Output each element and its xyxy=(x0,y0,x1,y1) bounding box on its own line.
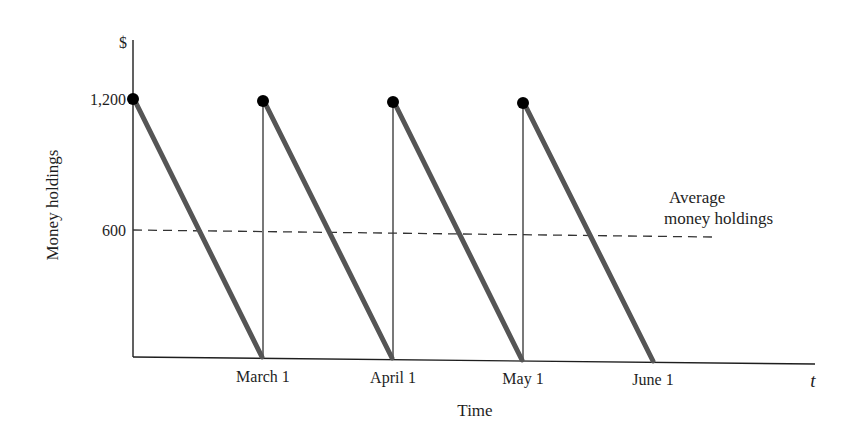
peak-dot xyxy=(387,96,399,108)
average-annotation-line1: Average xyxy=(669,188,725,207)
y-tick-600: 600 xyxy=(102,222,126,239)
x-tick-june: June 1 xyxy=(632,371,673,388)
average-annotation-line2: money holdings xyxy=(664,209,773,228)
segment-may xyxy=(525,105,653,361)
x-tick-march: March 1 xyxy=(236,368,290,385)
x-tick-may: May 1 xyxy=(502,370,543,388)
peak-dot xyxy=(517,97,529,109)
money-holdings-chart: $ 1,200 600 Money holdings March 1 April… xyxy=(0,0,858,440)
peak-dot xyxy=(257,95,269,107)
x-axis-title: Time xyxy=(457,401,492,420)
x-axis xyxy=(133,357,815,364)
y-axis-title: Money holdings xyxy=(43,150,62,261)
average-line xyxy=(133,230,712,237)
y-tick-1200: 1,200 xyxy=(90,91,126,108)
x-tick-april: April 1 xyxy=(370,369,416,387)
peak-dot xyxy=(127,93,139,105)
segment-april xyxy=(395,104,522,360)
x-axis-variable: t xyxy=(810,370,816,391)
segment-march xyxy=(265,103,392,358)
segment-feb xyxy=(135,101,262,357)
y-unit-label: $ xyxy=(119,34,127,51)
